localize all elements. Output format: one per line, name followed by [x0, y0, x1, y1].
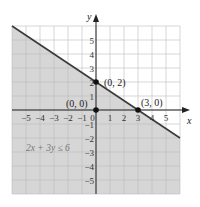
- x-tick-label: 4: [150, 113, 155, 123]
- y-tick-label: −3: [84, 148, 94, 158]
- y-tick-label: −2: [84, 134, 94, 144]
- point-label-0-2: (0, 2): [104, 77, 126, 89]
- point-label-0-0: (0, 0): [66, 98, 88, 110]
- y-tick-label: 4: [90, 50, 95, 60]
- graph: −5−4−3−2−1012345−5−4−3−2−112345 x y (0, …: [0, 0, 200, 207]
- x-tick-label: −3: [49, 113, 59, 123]
- y-tick-label: 1: [90, 92, 95, 102]
- y-axis-label: y: [86, 11, 92, 22]
- x-tick-label: 1: [108, 113, 113, 123]
- y-tick-label: −1: [84, 120, 94, 130]
- x-axis-arrow-icon: [182, 107, 190, 113]
- y-tick-label: 3: [90, 64, 95, 74]
- x-tick-label: 2: [122, 113, 127, 123]
- x-tick-label: −2: [63, 113, 73, 123]
- y-axis-arrow-icon: [93, 14, 99, 22]
- x-tick-label: 5: [164, 113, 169, 123]
- x-tick-label: −4: [35, 113, 45, 123]
- x-tick-label: 3: [136, 113, 141, 123]
- y-tick-label: −5: [84, 176, 94, 186]
- data-point: [93, 107, 99, 113]
- data-point: [135, 107, 141, 113]
- x-tick-label: −5: [21, 113, 31, 123]
- point-label-3-0: (3, 0): [141, 97, 163, 109]
- y-tick-label: −4: [84, 162, 94, 172]
- x-axis-label: x: [186, 115, 192, 126]
- y-tick-label: 5: [90, 36, 95, 46]
- inequality-annotation: 2x + 3y ≤ 6: [26, 143, 70, 153]
- data-point: [93, 79, 99, 85]
